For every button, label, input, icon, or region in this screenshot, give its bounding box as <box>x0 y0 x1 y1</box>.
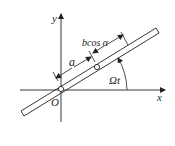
rod-diagram: y x O a bcos α Ωt <box>0 0 175 146</box>
dim-tick-origin <box>53 72 58 81</box>
angle-label: Ωt <box>109 74 121 86</box>
origin-pivot <box>58 86 63 91</box>
origin-label: O <box>51 96 59 108</box>
y-axis-label: y <box>51 12 57 24</box>
dim-line-a <box>56 68 72 78</box>
length-a-label: a <box>69 55 75 69</box>
slider-point <box>94 64 99 69</box>
diagram-canvas: y x O a bcos α Ωt <box>0 0 175 146</box>
length-bcos-label: bcos α <box>82 37 109 48</box>
dim-tick-end <box>121 32 128 45</box>
x-axis-label: x <box>156 91 162 103</box>
